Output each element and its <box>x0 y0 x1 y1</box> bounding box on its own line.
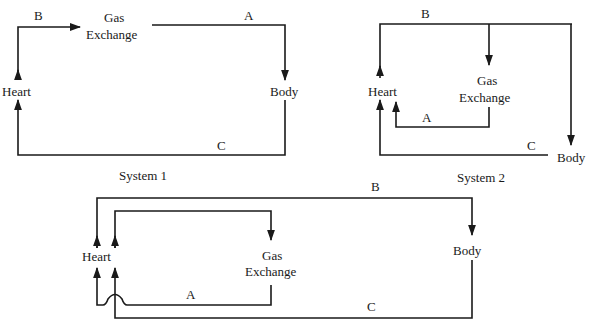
system-1-path-b <box>18 27 80 73</box>
system-2-label-a: A <box>422 110 432 125</box>
system-3-label-c: C <box>367 299 376 314</box>
system-1-caption: System 1 <box>119 168 167 183</box>
system-2-diagram: B A C Heart Gas Exchange Body System 2 <box>368 6 586 185</box>
system-2-label-c: C <box>527 138 536 153</box>
system-3-node-gas-exchange-line1: Gas <box>262 248 282 263</box>
system-3-label-a: A <box>186 287 196 302</box>
system-2-node-heart: Heart <box>368 84 397 99</box>
system-2-node-body: Body <box>557 150 586 165</box>
system-2-node-gas-exchange-line2: Exchange <box>459 90 510 105</box>
system-3-node-heart: Heart <box>82 249 111 264</box>
system-2-caption: System 2 <box>457 170 505 185</box>
system-3-path-b <box>97 198 472 248</box>
system-1-diagram: B A C Heart Gas Exchange Body System 1 <box>2 8 299 183</box>
system-1-path-c <box>18 100 285 155</box>
system-1-node-heart: Heart <box>2 84 31 99</box>
system-2-path-a <box>396 102 489 127</box>
system-2-path-b <box>380 24 572 73</box>
system-2-node-gas-exchange-line1: Gas <box>477 73 497 88</box>
system-3-path-to-gas <box>115 211 271 248</box>
system-1-label-a: A <box>244 8 254 23</box>
system-3-label-b: B <box>371 179 380 194</box>
system-3-node-gas-exchange-line2: Exchange <box>245 264 296 279</box>
system-3-diagram: B A C Heart Gas Exchange Body <box>82 179 482 318</box>
system-1-label-c: C <box>217 138 226 153</box>
system-1-label-b: B <box>34 8 43 23</box>
system-2-label-b: B <box>421 6 430 21</box>
system-1-node-body: Body <box>270 84 299 99</box>
system-1-node-gas-exchange-line2: Exchange <box>86 27 137 42</box>
system-3-node-body: Body <box>453 243 482 258</box>
system-1-node-gas-exchange-line1: Gas <box>104 10 124 25</box>
system-1-path-a <box>152 25 285 80</box>
